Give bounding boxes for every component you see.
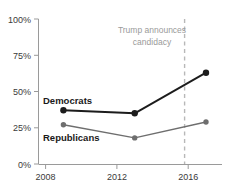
y-axis-label-0: 0%: [18, 160, 31, 170]
series-label-democrats: Democrats: [43, 95, 92, 106]
chart-background: [0, 0, 229, 192]
y-axis-label-50: 50%: [13, 87, 31, 97]
republicans-point-2017: [203, 119, 208, 124]
annotation-line-2: candidacy: [133, 37, 172, 47]
annotation-line-1: Trump announces: [118, 25, 186, 35]
democrats-point-2017: [203, 70, 209, 76]
x-axis-label-2012: 2012: [107, 172, 127, 182]
y-axis-label-25: 25%: [13, 123, 31, 133]
y-axis-label-100: 100%: [8, 15, 31, 25]
x-axis-label-2016: 2016: [178, 172, 198, 182]
republicans-point-2013: [132, 135, 137, 140]
democrats-point-2009: [60, 107, 66, 113]
series-label-republicans: Republicans: [43, 132, 100, 143]
democrats-point-2013: [132, 110, 138, 116]
chart-container: 100% 75% 50% 25% 0% 2008 2012 2016 Trump…: [0, 0, 229, 192]
x-axis-label-2008: 2008: [36, 172, 56, 182]
y-axis-label-75: 75%: [13, 51, 31, 61]
republicans-point-2009: [61, 122, 66, 127]
line-chart: 100% 75% 50% 25% 0% 2008 2012 2016 Trump…: [0, 0, 229, 192]
